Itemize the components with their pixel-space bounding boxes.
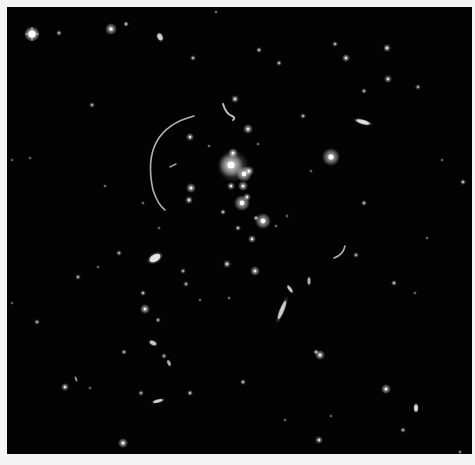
galaxy (254, 270, 257, 273)
elongated-galaxies (73, 30, 419, 413)
galaxy (402, 429, 404, 431)
galaxy (251, 238, 253, 240)
galaxy (77, 276, 79, 278)
galaxy (258, 49, 260, 51)
galaxy (190, 187, 193, 190)
elongated-galaxy (414, 405, 418, 412)
lensing-arc (170, 164, 176, 167)
galaxy (118, 252, 120, 254)
galaxy (222, 211, 224, 213)
galaxy (363, 202, 365, 204)
lensing-arc (334, 246, 345, 258)
galaxy (278, 62, 280, 64)
galaxy (226, 263, 228, 265)
galaxy (237, 227, 239, 229)
galaxies (10, 10, 466, 454)
galaxy (58, 32, 60, 34)
galaxy (302, 115, 304, 117)
galaxy (387, 78, 389, 80)
galaxy (199, 299, 200, 300)
galaxy (275, 225, 276, 226)
galaxy (215, 11, 216, 12)
galaxy (123, 351, 125, 353)
galaxy (104, 185, 105, 186)
galaxy (459, 451, 460, 452)
galaxy-cluster-field (7, 7, 472, 454)
galaxy (11, 302, 12, 303)
galaxy (385, 388, 388, 391)
galaxy (355, 254, 357, 256)
elongated-galaxy (308, 278, 311, 285)
galaxy (441, 159, 442, 160)
galaxy (232, 152, 235, 155)
galaxy (414, 292, 415, 293)
lensing-arc (150, 116, 194, 210)
galaxy (255, 217, 257, 219)
galaxy (315, 351, 317, 353)
galaxy (363, 90, 365, 92)
galaxy (234, 98, 236, 100)
galaxy (242, 185, 245, 188)
galaxy (286, 215, 287, 216)
galaxy (242, 381, 244, 383)
galaxy (328, 154, 333, 159)
galaxy (142, 292, 144, 294)
galaxy (157, 319, 159, 321)
galaxy (163, 355, 165, 357)
galaxy (246, 196, 248, 198)
galaxy (248, 170, 251, 173)
galaxy (109, 27, 113, 31)
astronomical-image (7, 7, 472, 454)
galaxy (11, 159, 12, 160)
galaxy (230, 185, 232, 187)
galaxy (393, 282, 395, 284)
galaxy (97, 266, 98, 267)
galaxy (192, 57, 194, 59)
bright-star-icon (24, 26, 39, 41)
galaxy (345, 57, 347, 59)
galaxy (227, 161, 234, 168)
galaxy (284, 419, 285, 420)
galaxy (334, 43, 336, 45)
galaxy (140, 392, 142, 394)
galaxy (417, 86, 419, 88)
galaxy (228, 297, 229, 298)
galaxy (240, 201, 245, 206)
galaxy (310, 170, 311, 171)
galaxy (158, 227, 159, 228)
galaxy (142, 202, 143, 203)
galaxy (319, 354, 322, 357)
galaxy (257, 143, 258, 144)
galaxy (189, 392, 191, 394)
galaxy (91, 104, 93, 106)
galaxy (188, 199, 190, 201)
galaxy (64, 386, 66, 388)
galaxy (36, 321, 38, 323)
galaxy (29, 157, 30, 158)
galaxy (144, 308, 147, 311)
galaxy (462, 181, 464, 183)
galaxy (261, 219, 266, 224)
galaxy (125, 23, 127, 25)
galaxy (122, 442, 125, 445)
galaxy (189, 136, 191, 138)
galaxy (247, 128, 250, 131)
galaxy (330, 415, 331, 416)
galaxy (386, 47, 388, 49)
galaxy (185, 283, 187, 285)
galaxy (89, 387, 90, 388)
galaxy (208, 145, 209, 146)
galaxy (426, 237, 427, 238)
lensing-arc (223, 104, 234, 120)
galaxy (318, 439, 320, 441)
galaxy (182, 270, 184, 272)
